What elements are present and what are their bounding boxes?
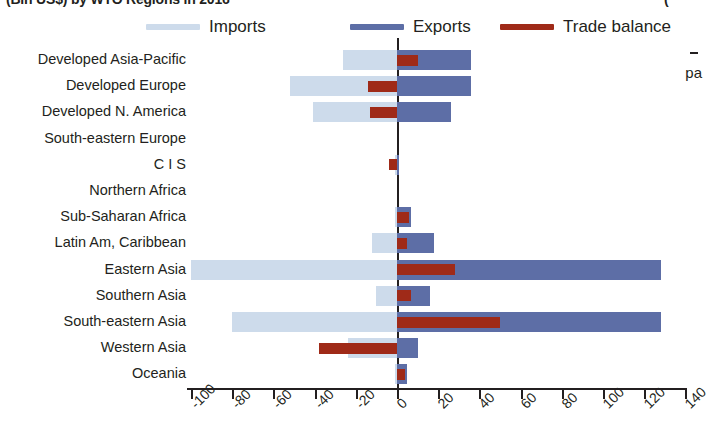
x-axis: -100-80-60-40-20020406080100120140 xyxy=(0,388,704,448)
legend-item-exports: Exports xyxy=(350,13,471,40)
bar-exports xyxy=(397,338,418,358)
bar-imports xyxy=(343,50,397,70)
legend-swatch-imports xyxy=(146,24,200,30)
plot-area: Developed Asia-PacificDeveloped EuropeDe… xyxy=(0,42,704,448)
legend-swatch-trade-balance xyxy=(500,24,554,30)
cropped-title-strip: (Bln US$) by WTO Regions in 2016 ( xyxy=(0,0,704,13)
bar-exports xyxy=(397,76,471,96)
bar-imports xyxy=(372,233,397,253)
bar-trade-balance xyxy=(370,107,397,118)
bar-trade-balance xyxy=(397,238,407,249)
chart-legend: Imports Exports Trade balance xyxy=(0,13,704,40)
bar-trade-balance xyxy=(397,290,411,301)
bar-trade-balance xyxy=(397,369,405,380)
bar-trade-balance xyxy=(368,81,397,92)
bar-trade-balance xyxy=(397,317,500,328)
bar-imports xyxy=(232,312,397,332)
legend-swatch-exports xyxy=(350,24,404,30)
bar-series-container xyxy=(0,42,704,388)
bar-exports xyxy=(397,155,399,175)
page-title: (Bln US$) by WTO Regions in 2016 xyxy=(6,0,230,7)
bar-trade-balance xyxy=(397,264,455,275)
legend-item-trade-balance: Trade balance xyxy=(500,13,671,40)
bar-imports xyxy=(191,260,397,280)
bar-exports xyxy=(397,102,451,122)
bar-trade-balance xyxy=(389,159,397,170)
legend-label-exports: Exports xyxy=(413,18,471,35)
legend-label-trade-balance: Trade balance xyxy=(563,18,671,35)
bar-trade-balance xyxy=(397,55,418,66)
x-axis-tick-label: 0 xyxy=(394,395,409,410)
bar-trade-balance xyxy=(397,212,409,223)
page-title-right-fragment: ( xyxy=(664,0,669,7)
legend-label-imports: Imports xyxy=(209,18,266,35)
legend-item-imports: Imports xyxy=(146,13,266,40)
bar-imports xyxy=(376,286,397,306)
bar-trade-balance xyxy=(319,343,397,354)
